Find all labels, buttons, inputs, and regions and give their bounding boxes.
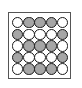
circle-white <box>46 52 57 63</box>
circle-gray <box>34 40 45 51</box>
circle-white <box>12 40 23 51</box>
circle-white <box>57 63 68 74</box>
circle-white <box>12 17 23 28</box>
circle-gray <box>46 17 57 28</box>
circle-white <box>57 40 68 51</box>
circle-white <box>46 29 57 40</box>
circle-gray <box>23 40 34 51</box>
circle-gray <box>34 63 45 74</box>
circle-white <box>12 63 23 74</box>
circle-gray <box>46 40 57 51</box>
circle-gray <box>57 29 68 40</box>
circle-gray <box>12 52 23 63</box>
circle-white <box>57 17 68 28</box>
circle-white <box>34 29 45 40</box>
circle-gray <box>23 17 34 28</box>
circle-white <box>34 52 45 63</box>
circle-grid <box>12 17 68 75</box>
circle-gray <box>34 17 45 28</box>
circle-gray <box>57 52 68 63</box>
circle-white <box>23 29 34 40</box>
grid-frame <box>8 12 71 79</box>
circle-gray <box>12 29 23 40</box>
circle-white <box>23 52 34 63</box>
circle-gray <box>23 63 34 74</box>
circle-gray <box>46 63 57 74</box>
